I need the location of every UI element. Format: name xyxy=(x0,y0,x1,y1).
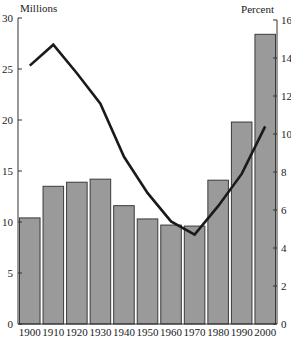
bar-1980 xyxy=(208,180,229,324)
bar-1940 xyxy=(114,206,135,324)
bar-1950 xyxy=(137,219,158,324)
x-tick-label: 1940 xyxy=(113,326,136,338)
right-axis-label: Percent xyxy=(241,3,274,15)
right-tick-label: 4 xyxy=(281,242,287,254)
x-tick-label: 1960 xyxy=(160,326,183,338)
chart: Millions Percent 051015202530 0246810121… xyxy=(0,0,291,338)
x-axis: 1900191019201930194019501960197019801990… xyxy=(18,324,277,338)
left-tick-label: 20 xyxy=(2,114,14,126)
right-tick-label: 0 xyxy=(281,318,287,330)
right-tick-label: 10 xyxy=(281,128,291,140)
x-tick-label: 1900 xyxy=(19,326,42,338)
left-tick-label: 0 xyxy=(8,318,14,330)
right-tick-label: 2 xyxy=(281,280,287,292)
bar-1990 xyxy=(231,122,252,324)
bar-1920 xyxy=(67,182,88,324)
x-tick-label: 1920 xyxy=(66,326,89,338)
x-tick-label: 1950 xyxy=(137,326,160,338)
bar-1910 xyxy=(43,186,64,324)
x-tick-label: 1930 xyxy=(89,326,112,338)
right-tick-label: 14 xyxy=(281,52,291,64)
left-tick-label: 10 xyxy=(2,216,14,228)
left-tick-label: 25 xyxy=(2,63,14,75)
bar-1900 xyxy=(20,218,41,324)
bar-1930 xyxy=(90,179,111,324)
left-axis-label: Millions xyxy=(20,2,57,14)
right-tick-label: 6 xyxy=(281,204,287,216)
bar-1960 xyxy=(161,225,182,324)
right-tick-label: 8 xyxy=(281,166,287,178)
percent-line xyxy=(30,45,265,235)
left-axis: 051015202530 xyxy=(2,12,22,330)
x-tick-label: 1910 xyxy=(42,326,65,338)
x-tick-label: 1970 xyxy=(184,326,207,338)
left-tick-label: 15 xyxy=(2,165,14,177)
left-tick-label: 30 xyxy=(2,12,14,24)
x-tick-label: 1990 xyxy=(231,326,254,338)
left-tick-label: 5 xyxy=(8,267,14,279)
right-tick-label: 12 xyxy=(281,90,291,102)
x-tick-label: 2000 xyxy=(254,326,277,338)
bar-1970 xyxy=(184,226,205,324)
right-tick-label: 16 xyxy=(281,14,291,26)
x-tick-label: 1980 xyxy=(207,326,230,338)
bar-2000 xyxy=(255,34,276,324)
